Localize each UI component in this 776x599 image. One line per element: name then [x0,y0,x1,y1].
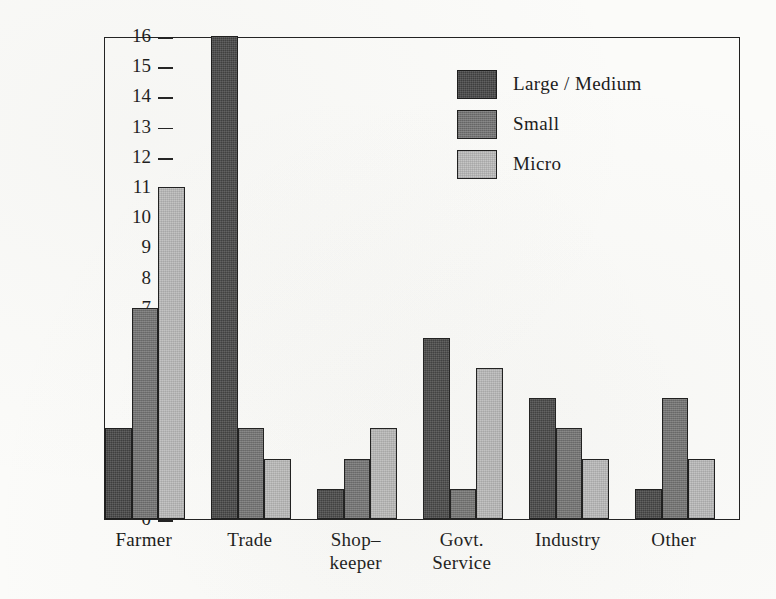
bar [529,398,556,519]
bar [423,338,450,519]
bar [264,459,291,519]
y-axis-tick-mark [158,520,173,522]
bar [211,36,238,519]
legend-label: Large / Medium [513,73,642,95]
chart-legend: Large / MediumSmallMicro [457,66,687,186]
bar [238,428,265,519]
legend-label: Micro [513,153,561,175]
bar [344,459,371,519]
bar [688,459,715,519]
legend-swatch [457,110,497,139]
x-axis-category-label: Other [599,528,749,551]
legend-entry: Small [457,106,687,142]
bar [450,489,477,519]
legend-label: Small [513,113,559,135]
bar [635,489,662,519]
bar [317,489,344,519]
legend-entry: Large / Medium [457,66,687,102]
bar [556,428,583,519]
legend-entry: Micro [457,146,687,182]
bar [476,368,503,519]
bar [662,398,689,519]
bar [105,428,132,519]
legend-swatch [457,70,497,99]
legend-swatch [457,150,497,179]
bar [158,187,185,519]
bar-chart-figure: Number of Respondents 012345678910111213… [0,0,776,599]
bar [582,459,609,519]
bar [132,308,159,519]
bar [370,428,397,519]
